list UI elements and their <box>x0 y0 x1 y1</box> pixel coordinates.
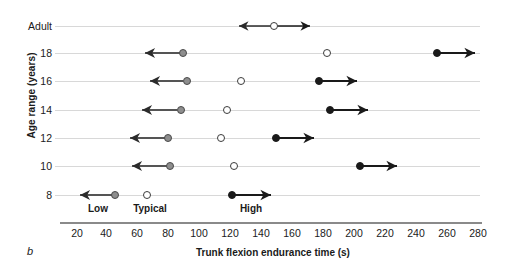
marker-low-10 <box>166 162 174 170</box>
category-label-typical: Typical <box>115 203 185 214</box>
x-axis-title: Trunk flexion endurance time (s) <box>143 247 403 258</box>
y-tick-label-adult: Adult <box>0 20 52 32</box>
marker-low-18 <box>179 49 187 57</box>
marker-typical-12 <box>217 134 225 142</box>
gridline-adult <box>55 26 480 27</box>
marker-high-16 <box>315 77 323 85</box>
gridline-12 <box>55 138 480 139</box>
marker-low-12 <box>164 134 172 142</box>
y-tick-label-12: 12 <box>0 132 52 144</box>
marker-typical-14 <box>223 106 231 114</box>
marker-low-14 <box>177 106 185 114</box>
x-axis-line <box>60 222 482 224</box>
gridline-18 <box>55 53 480 54</box>
y-axis-title: Age range (years) <box>26 21 37 171</box>
marker-high-12 <box>272 134 280 142</box>
marker-typical-16 <box>237 77 245 85</box>
marker-high-18 <box>433 49 441 57</box>
gridline-16 <box>55 81 480 82</box>
gridline-14 <box>55 110 480 111</box>
y-tick-label-14: 14 <box>0 104 52 116</box>
category-label-high: High <box>216 203 286 214</box>
marker-typical-18 <box>323 49 331 57</box>
marker-low-8 <box>111 191 119 199</box>
marker-typical-8 <box>143 191 151 199</box>
y-tick-label-8: 8 <box>0 189 52 201</box>
panel-letter: b <box>27 245 33 257</box>
marker-typical-10 <box>230 162 238 170</box>
marker-high-10 <box>356 162 364 170</box>
marker-high-14 <box>326 106 334 114</box>
x-tick-label-280: 280 <box>458 227 498 239</box>
figure-panel: Age range (years) Adult 18 16 14 12 10 8 <box>0 0 507 278</box>
y-tick-label-16: 16 <box>0 75 52 87</box>
marker-typical-adult <box>270 22 278 30</box>
marker-low-16 <box>183 77 191 85</box>
gridline-10 <box>55 166 480 167</box>
y-tick-label-10: 10 <box>0 160 52 172</box>
y-tick-label-18: 18 <box>0 47 52 59</box>
marker-high-8 <box>228 191 236 199</box>
